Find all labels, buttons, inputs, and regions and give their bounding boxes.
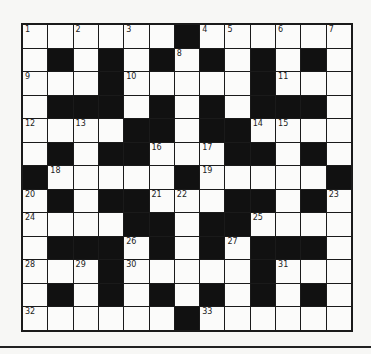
grid-cell[interactable] [301, 307, 325, 330]
grid-cell[interactable] [251, 25, 275, 48]
grid-cell[interactable] [327, 119, 351, 142]
grid-cell[interactable] [74, 307, 98, 330]
grid-cell[interactable] [124, 49, 148, 72]
grid-cell[interactable] [301, 119, 325, 142]
grid-cell[interactable] [225, 166, 249, 189]
grid-cell[interactable] [276, 143, 300, 166]
grid-cell[interactable] [48, 213, 72, 236]
grid-cell[interactable] [99, 213, 123, 236]
grid-cell[interactable] [150, 260, 174, 283]
grid-cell[interactable] [225, 307, 249, 330]
grid-cell[interactable] [74, 143, 98, 166]
grid-cell[interactable] [301, 25, 325, 48]
grid-cell[interactable] [99, 166, 123, 189]
grid-cell[interactable] [276, 190, 300, 213]
grid-cell[interactable] [124, 166, 148, 189]
grid-cell[interactable] [327, 260, 351, 283]
grid-cell[interactable] [225, 72, 249, 95]
grid-cell[interactable] [74, 72, 98, 95]
grid-cell[interactable] [124, 96, 148, 119]
grid-cell[interactable] [327, 284, 351, 307]
grid-cell[interactable] [74, 166, 98, 189]
grid-cell[interactable] [48, 307, 72, 330]
grid-cell[interactable] [99, 307, 123, 330]
grid-cell[interactable] [150, 72, 174, 95]
grid-cell[interactable] [150, 166, 174, 189]
grid-cell[interactable] [276, 166, 300, 189]
grid-cell[interactable] [276, 284, 300, 307]
grid-cell[interactable] [150, 25, 174, 48]
grid-cell[interactable] [99, 119, 123, 142]
grid-cell[interactable] [124, 284, 148, 307]
grid-cell[interactable]: 21 [150, 190, 174, 213]
grid-cell[interactable] [327, 72, 351, 95]
grid-cell[interactable]: 2 [74, 25, 98, 48]
grid-cell[interactable]: 3 [124, 25, 148, 48]
grid-cell[interactable] [225, 96, 249, 119]
grid-cell[interactable]: 13 [74, 119, 98, 142]
grid-cell[interactable] [23, 49, 47, 72]
grid-cell[interactable]: 28 [23, 260, 47, 283]
grid-cell[interactable] [225, 284, 249, 307]
grid-cell[interactable] [175, 260, 199, 283]
grid-cell[interactable] [74, 49, 98, 72]
grid-cell[interactable] [74, 190, 98, 213]
grid-cell[interactable] [175, 213, 199, 236]
grid-cell[interactable]: 32 [23, 307, 47, 330]
grid-cell[interactable]: 19 [200, 166, 224, 189]
grid-cell[interactable]: 26 [124, 237, 148, 260]
grid-cell[interactable]: 15 [276, 119, 300, 142]
grid-cell[interactable]: 6 [276, 25, 300, 48]
grid-cell[interactable]: 33 [200, 307, 224, 330]
grid-cell[interactable] [175, 284, 199, 307]
grid-cell[interactable] [276, 213, 300, 236]
grid-cell[interactable] [23, 237, 47, 260]
grid-cell[interactable]: 14 [251, 119, 275, 142]
grid-cell[interactable] [327, 143, 351, 166]
grid-cell[interactable]: 31 [276, 260, 300, 283]
grid-cell[interactable] [327, 237, 351, 260]
grid-cell[interactable] [23, 284, 47, 307]
grid-cell[interactable]: 10 [124, 72, 148, 95]
grid-cell[interactable] [48, 260, 72, 283]
grid-cell[interactable]: 5 [225, 25, 249, 48]
grid-cell[interactable] [99, 25, 123, 48]
grid-cell[interactable]: 11 [276, 72, 300, 95]
grid-cell[interactable]: 8 [175, 49, 199, 72]
grid-cell[interactable] [74, 284, 98, 307]
grid-cell[interactable] [301, 166, 325, 189]
grid-cell[interactable]: 29 [74, 260, 98, 283]
grid-cell[interactable]: 30 [124, 260, 148, 283]
grid-cell[interactable] [301, 260, 325, 283]
grid-cell[interactable] [327, 213, 351, 236]
grid-cell[interactable]: 12 [23, 119, 47, 142]
grid-cell[interactable] [327, 307, 351, 330]
grid-cell[interactable]: 9 [23, 72, 47, 95]
grid-cell[interactable]: 24 [23, 213, 47, 236]
grid-cell[interactable]: 27 [225, 237, 249, 260]
grid-cell[interactable] [251, 166, 275, 189]
grid-cell[interactable] [200, 260, 224, 283]
grid-cell[interactable] [175, 237, 199, 260]
grid-cell[interactable] [327, 49, 351, 72]
grid-cell[interactable]: 17 [200, 143, 224, 166]
grid-cell[interactable]: 25 [251, 213, 275, 236]
grid-cell[interactable] [150, 307, 174, 330]
grid-cell[interactable] [74, 213, 98, 236]
grid-cell[interactable] [23, 143, 47, 166]
grid-cell[interactable] [327, 96, 351, 119]
grid-cell[interactable] [200, 190, 224, 213]
grid-cell[interactable] [175, 96, 199, 119]
grid-cell[interactable] [225, 260, 249, 283]
grid-cell[interactable] [175, 119, 199, 142]
grid-cell[interactable]: 22 [175, 190, 199, 213]
grid-cell[interactable] [200, 72, 224, 95]
grid-cell[interactable] [175, 72, 199, 95]
grid-cell[interactable] [301, 72, 325, 95]
grid-cell[interactable]: 1 [23, 25, 47, 48]
grid-cell[interactable] [276, 49, 300, 72]
grid-cell[interactable]: 16 [150, 143, 174, 166]
grid-cell[interactable]: 7 [327, 25, 351, 48]
grid-cell[interactable] [175, 143, 199, 166]
grid-cell[interactable] [276, 307, 300, 330]
